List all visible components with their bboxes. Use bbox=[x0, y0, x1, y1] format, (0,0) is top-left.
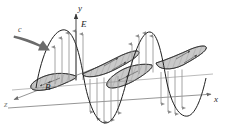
x-axis-line bbox=[8, 94, 211, 108]
c-arrow-icon bbox=[14, 36, 51, 51]
em-wave-figure: z bbox=[0, 0, 227, 133]
b-field-lobes bbox=[31, 46, 207, 90]
x-axis: x bbox=[8, 94, 218, 108]
y-axis: y bbox=[76, 3, 82, 80]
propagation-arrow-group: c bbox=[14, 25, 51, 51]
em-wave-canvas: z bbox=[0, 0, 227, 133]
e-field-label: E bbox=[80, 19, 87, 29]
z-axis-label: z bbox=[3, 99, 8, 109]
b-field-label: B bbox=[45, 82, 51, 92]
x-axis-label: x bbox=[213, 94, 218, 104]
y-axis-label: y bbox=[77, 3, 82, 13]
propagation-speed-label: c bbox=[18, 25, 22, 34]
